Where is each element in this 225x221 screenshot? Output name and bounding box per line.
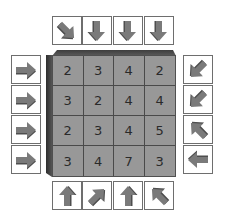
arrow-left-icon [185, 147, 211, 173]
top-clue-1[interactable] [52, 16, 82, 45]
top-clue-4[interactable] [144, 16, 174, 45]
grid-cell-r1c2[interactable]: 3 [84, 56, 115, 86]
arrow-right-icon [13, 147, 39, 173]
top-clue-2[interactable] [82, 16, 112, 45]
left-clue-2[interactable] [11, 85, 41, 114]
grid-cell-r4c1[interactable]: 3 [53, 146, 84, 176]
arrow-right-icon [13, 57, 39, 83]
arrow-down-right-icon [54, 18, 80, 44]
right-clue-1[interactable] [183, 55, 213, 84]
arrow-down-left-icon [185, 57, 211, 83]
grid-cell-r3c3[interactable]: 4 [114, 116, 145, 146]
left-clue-4[interactable] [11, 145, 41, 174]
arrow-up-right-icon [84, 183, 110, 209]
arrow-right-icon [13, 87, 39, 113]
right-clue-2[interactable] [183, 85, 213, 114]
arrow-right-icon [13, 117, 39, 143]
arrow-up-icon [115, 183, 141, 209]
arrow-up-left-icon [146, 183, 172, 209]
bottom-clue-3[interactable] [113, 181, 143, 210]
bottom-clue-1[interactable] [52, 181, 82, 210]
grid-cell-r3c1[interactable]: 2 [53, 116, 84, 146]
grid-cell-r4c3[interactable]: 7 [114, 146, 145, 176]
grid-cell-r2c4[interactable]: 4 [145, 86, 176, 116]
arrow-down-icon [115, 18, 141, 44]
arrow-up-icon [54, 183, 80, 209]
right-clue-4[interactable] [183, 145, 213, 174]
arrow-down-icon [84, 18, 110, 44]
arrow-down-left-icon [185, 87, 211, 113]
grid-cell-r3c4[interactable]: 5 [145, 116, 176, 146]
arrow-down-icon [146, 18, 172, 44]
right-clue-3[interactable] [183, 115, 213, 144]
grid-cell-r1c1[interactable]: 2 [53, 56, 84, 86]
grid-cell-r2c2[interactable]: 2 [84, 86, 115, 116]
grid-cell-r1c3[interactable]: 4 [114, 56, 145, 86]
grid-cell-r4c2[interactable]: 4 [84, 146, 115, 176]
bottom-clue-4[interactable] [144, 181, 174, 210]
left-clue-3[interactable] [11, 115, 41, 144]
grid-cell-r3c2[interactable]: 3 [84, 116, 115, 146]
arrow-up-left-icon [185, 117, 211, 143]
grid-cell-r2c1[interactable]: 3 [53, 86, 84, 116]
grid-cell-r1c4[interactable]: 2 [145, 56, 176, 86]
bottom-clue-2[interactable] [82, 181, 112, 210]
grid-cell-r4c4[interactable]: 3 [145, 146, 176, 176]
number-grid-block: 2 3 4 2 3 2 4 4 2 3 4 5 3 4 7 3 [46, 50, 176, 177]
left-clue-1[interactable] [11, 55, 41, 84]
number-grid: 2 3 4 2 3 2 4 4 2 3 4 5 3 4 7 3 [52, 55, 176, 177]
top-clue-3[interactable] [113, 16, 143, 45]
grid-cell-r2c3[interactable]: 4 [114, 86, 145, 116]
